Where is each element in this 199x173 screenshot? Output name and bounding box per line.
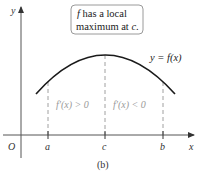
origin-label: O <box>8 141 15 152</box>
annotation-line-2: maximum at c. <box>76 21 139 32</box>
region-label-increasing: f′(x) > 0 <box>56 99 89 111</box>
y-axis-label: y <box>10 5 16 16</box>
tick-label-b: b <box>160 141 165 152</box>
annotation-line-1: f has a local <box>77 8 127 19</box>
x-axis-label: x <box>188 141 194 152</box>
figure-caption: (b) <box>97 159 109 171</box>
region-label-decreasing: f′(x) < 0 <box>113 99 146 111</box>
local-maximum-diagram: f has a local maximum at c. y = f(x) f′(… <box>0 0 199 173</box>
tick-label-a: a <box>45 141 50 152</box>
curve-label: y = f(x) <box>149 52 182 64</box>
tick-label-c: c <box>102 141 107 152</box>
